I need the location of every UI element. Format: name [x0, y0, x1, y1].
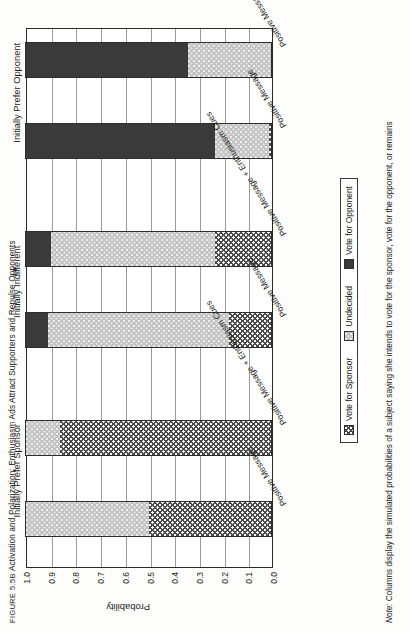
- y-axis-tick-label: 0.4: [170, 572, 180, 584]
- stacked-bar: [25, 42, 272, 78]
- bar-segment-undecided: [188, 43, 271, 77]
- y-axis-tick-label: 1.0: [22, 572, 32, 584]
- legend-swatch: [344, 331, 354, 341]
- y-axis-tick-label: 0.5: [146, 572, 156, 584]
- gridline: [76, 29, 77, 567]
- y-axis-label: Probability: [106, 602, 150, 613]
- y-axis-tick-label: 0.8: [71, 572, 81, 584]
- figure-canvas: FIGURE 5.5B Activation and Polarization:…: [0, 0, 410, 631]
- legend-item: Undecided: [344, 286, 354, 341]
- legend-swatch: [344, 259, 354, 269]
- gridline: [151, 29, 152, 567]
- bar-segment-opponent: [26, 43, 188, 77]
- gridline: [225, 29, 226, 567]
- bar-segment-opponent: [26, 313, 48, 347]
- stacked-bar: [25, 231, 272, 267]
- bar-segment-undecided: [51, 232, 215, 266]
- y-axis-tick-label: 0.2: [220, 572, 230, 584]
- group-label: Initially Prefer Opponent: [12, 43, 22, 143]
- bar-segment-opponent: [26, 232, 51, 266]
- y-axis-tick-label: 0.9: [47, 572, 57, 584]
- group-label: Initially Prefer Sponsor: [12, 424, 22, 518]
- bar-segment-undecided: [48, 313, 229, 347]
- y-axis-tick-label: 0.1: [244, 572, 254, 584]
- y-axis-tick-label: 0.7: [96, 572, 106, 584]
- y-axis-tick-label: 0.3: [195, 572, 205, 584]
- chart-legend: Vote for SponsorUndecidedVote for Oppone…: [340, 178, 358, 443]
- bar-segment-undecided: [26, 421, 60, 455]
- legend-swatch: [344, 425, 354, 435]
- plot-area: 0.00.10.20.30.40.50.60.70.80.91.0: [26, 28, 273, 568]
- bar-segment-sponsor: [60, 421, 271, 455]
- figure-note: Note: Columns display the simulated prob…: [385, 121, 394, 623]
- figure-number: FIGURE 5.5B: [8, 573, 17, 623]
- stacked-bar: [25, 420, 272, 456]
- bar-segment-sponsor: [215, 232, 271, 266]
- legend-label: Vote for Sponsor: [344, 358, 354, 421]
- bar-segment-undecided: [26, 502, 149, 536]
- gridline: [200, 29, 201, 567]
- y-axis-tick-label: 0.0: [269, 572, 279, 584]
- note-prefix: Note:: [385, 603, 394, 623]
- note-text: Columns display the simulated probabilit…: [385, 121, 394, 601]
- bar-segment-sponsor: [269, 124, 271, 158]
- group-label: Initially Indifferent: [12, 246, 22, 318]
- stacked-bar: [25, 501, 272, 537]
- legend-label: Undecided: [344, 286, 354, 327]
- legend-item: Vote for Sponsor: [344, 358, 354, 435]
- gridline: [101, 29, 102, 567]
- gridline: [52, 29, 53, 567]
- y-axis-tick-label: 0.6: [121, 572, 131, 584]
- legend-label: Vote for Opponent: [344, 186, 354, 255]
- bar-segment-sponsor: [149, 502, 272, 536]
- rotated-figure-frame: FIGURE 5.5B Activation and Polarization:…: [0, 0, 410, 631]
- gridline: [175, 29, 176, 567]
- gridline: [126, 29, 127, 567]
- bar-segment-opponent: [26, 124, 215, 158]
- legend-item: Vote for Opponent: [344, 186, 354, 269]
- gridline: [249, 29, 250, 567]
